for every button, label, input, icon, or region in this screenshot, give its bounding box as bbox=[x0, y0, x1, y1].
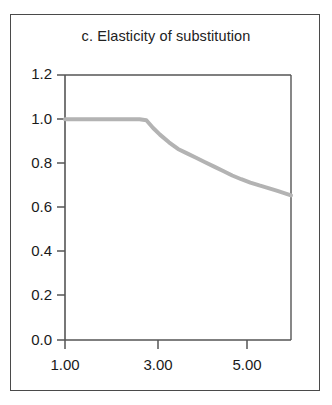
x-tick-label-1-00: 1.00 bbox=[35, 356, 95, 373]
figure-container: c. Elasticity of substitution 1 bbox=[0, 0, 332, 405]
y-tick-label-0-4: 0.4 bbox=[8, 242, 52, 259]
axes-frame bbox=[65, 75, 291, 340]
y-tick-label-0-2: 0.2 bbox=[8, 286, 52, 303]
elasticity-curve bbox=[65, 119, 291, 195]
y-tick-label-0-8: 0.8 bbox=[8, 154, 52, 171]
y-axis-ticks bbox=[57, 75, 65, 340]
x-tick-label-3-00: 3.00 bbox=[128, 356, 188, 373]
y-tick-label-1-2: 1.2 bbox=[8, 65, 52, 82]
x-tick-label-5-00: 5.00 bbox=[217, 356, 277, 373]
y-tick-label-1-0: 1.0 bbox=[8, 110, 52, 127]
y-tick-label-0-6: 0.6 bbox=[8, 198, 52, 215]
y-tick-label-0-0: 0.0 bbox=[8, 331, 52, 348]
x-axis-ticks bbox=[65, 340, 247, 349]
